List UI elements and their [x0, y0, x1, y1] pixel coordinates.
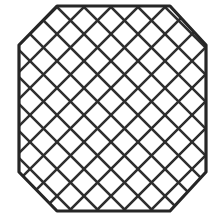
figure-root: Octagonal lattice grid A regular-ish oct… — [0, 0, 223, 219]
octagon-lattice-figure: Octagonal lattice grid A regular-ish oct… — [0, 0, 223, 219]
